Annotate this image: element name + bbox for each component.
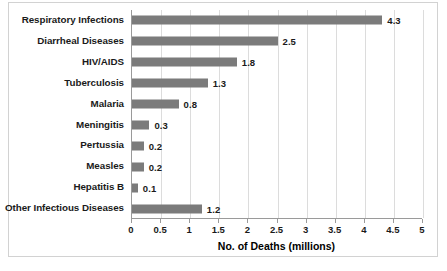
category-label: Malaria — [91, 94, 124, 115]
tick-label: 4 — [361, 224, 366, 235]
bar-value-label: 0.3 — [154, 119, 168, 130]
bar[interactable] — [132, 100, 179, 109]
tick-mark — [393, 219, 394, 223]
bar-row: 0.2 — [132, 135, 422, 156]
bar-row: 0.2 — [132, 156, 422, 177]
tick-mark — [364, 219, 365, 223]
tick-mark — [335, 219, 336, 223]
bar-value-label: 1.3 — [213, 78, 227, 89]
category-label: Diarrheal Diseases — [37, 31, 124, 52]
bar[interactable] — [132, 16, 382, 25]
bar[interactable] — [132, 183, 138, 192]
gridline — [423, 10, 424, 218]
bar-value-label: 0.2 — [149, 161, 163, 172]
bar-row: 1.3 — [132, 73, 422, 94]
category-label: HIV/AIDS — [82, 52, 124, 73]
category-label: Hepatitis B — [73, 177, 124, 198]
bar-row: 0.8 — [132, 94, 422, 115]
tick-label: 1 — [187, 224, 192, 235]
tick-mark — [422, 219, 423, 223]
category-label: Measles — [86, 156, 124, 177]
tick-mark — [306, 219, 307, 223]
tick-label: 5 — [419, 224, 424, 235]
bar[interactable] — [132, 120, 149, 129]
bar[interactable] — [132, 58, 237, 67]
bar[interactable] — [132, 141, 144, 150]
bar-value-label: 0.1 — [143, 182, 157, 193]
tick-label: 0 — [128, 224, 133, 235]
x-axis-title: No. of Deaths (millions) — [131, 240, 422, 252]
tick-mark — [218, 219, 219, 223]
tick-label: 1.5 — [212, 224, 225, 235]
bar-row: 4.3 — [132, 10, 422, 31]
bar-row: 2.5 — [132, 31, 422, 52]
bar-value-label: 2.5 — [283, 36, 297, 47]
tick-label: 3 — [303, 224, 308, 235]
tick-label: 0.5 — [153, 224, 166, 235]
bar-value-label: 1.8 — [242, 57, 256, 68]
bar-value-label: 4.3 — [387, 15, 401, 26]
tick-label: 2 — [245, 224, 250, 235]
bar[interactable] — [132, 204, 202, 213]
tick-label: 2.5 — [270, 224, 283, 235]
tick-mark — [189, 219, 190, 223]
category-axis-labels: Respiratory InfectionsDiarrheal Diseases… — [10, 10, 128, 219]
bar-row: 0.3 — [132, 115, 422, 136]
bar-row: 1.8 — [132, 52, 422, 73]
tick-mark — [277, 219, 278, 223]
category-label: Pertussia — [80, 135, 124, 156]
category-label: Tuberculosis — [64, 73, 124, 94]
x-axis-tick-marks — [131, 219, 422, 223]
bar-value-label: 0.8 — [184, 99, 198, 110]
bar-row: 0.1 — [132, 177, 422, 198]
tick-mark — [247, 219, 248, 223]
bar-value-label: 1.2 — [207, 203, 221, 214]
tick-mark — [131, 219, 132, 223]
tick-label: 4.5 — [386, 224, 399, 235]
category-label: Other Infectious Diseases — [5, 198, 124, 219]
bar[interactable] — [132, 162, 144, 171]
x-axis-tick-labels: 00.511.522.533.544.55 — [131, 224, 422, 238]
bar[interactable] — [132, 79, 208, 88]
bar-rows: 4.32.51.81.30.80.30.20.20.11.2 — [132, 10, 422, 218]
category-label: Respiratory Infections — [22, 10, 124, 31]
bar[interactable] — [132, 37, 278, 46]
plot-area: 4.32.51.81.30.80.30.20.20.11.2 — [131, 10, 422, 219]
bar-chart: Respiratory InfectionsDiarrheal Diseases… — [0, 0, 447, 271]
tick-mark — [160, 219, 161, 223]
category-label: Meningitis — [76, 115, 124, 136]
tick-label: 3.5 — [328, 224, 341, 235]
bar-value-label: 0.2 — [149, 140, 163, 151]
bar-row: 1.2 — [132, 198, 422, 219]
